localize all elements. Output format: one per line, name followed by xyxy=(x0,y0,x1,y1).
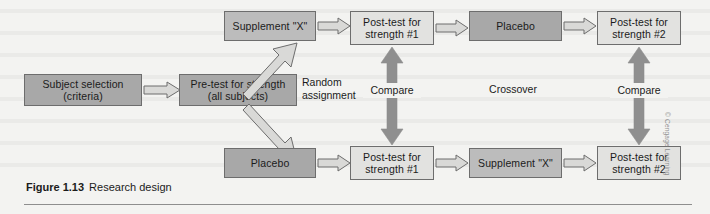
caption-divider-rule xyxy=(24,204,692,205)
figure-caption-text: Research design xyxy=(89,181,172,193)
box-bottom-treatment-supplement-x: Supplement "X" xyxy=(469,148,562,178)
arrow-top-posttest1-to-placebo xyxy=(435,19,469,37)
arrow-subject-selection-to-pre-test xyxy=(143,81,181,99)
box-top-post-test-2: Post-test for strength #2 xyxy=(597,11,681,45)
box-top-post-test-1: Post-test for strength #1 xyxy=(350,11,434,45)
box-bottom-post-test-1: Post-test for strength #1 xyxy=(350,146,434,180)
figure-canvas: Subject selection (criteria) Pre-test fo… xyxy=(0,0,710,214)
arrow-bottom-supplement-to-posttest2 xyxy=(563,154,597,172)
label-compare-left: Compare xyxy=(363,83,421,98)
arrow-top-supplement-to-posttest1 xyxy=(317,17,351,35)
box-top-treatment-supplement-x: Supplement "X" xyxy=(224,11,316,41)
box-bottom-treatment-placebo: Placebo xyxy=(224,148,316,178)
label-compare-right: Compare xyxy=(610,83,668,98)
label-random-assignment: Random assignment xyxy=(302,76,364,101)
arrow-bottom-placebo-to-posttest1 xyxy=(317,154,351,172)
arrow-bottom-posttest1-to-supplement xyxy=(435,154,469,172)
figure-caption: Figure 1.13Research design xyxy=(26,181,172,193)
box-top-treatment-placebo: Placebo xyxy=(469,11,562,41)
box-subject-selection: Subject selection (criteria) xyxy=(24,74,142,106)
copyright-credit: © Cengage Learning xyxy=(664,112,671,174)
label-crossover: Crossover xyxy=(467,83,559,96)
arrow-top-placebo-to-posttest2 xyxy=(563,17,597,35)
arrow-random-assignment-up xyxy=(239,38,299,100)
figure-number: Figure 1.13 xyxy=(26,181,84,193)
